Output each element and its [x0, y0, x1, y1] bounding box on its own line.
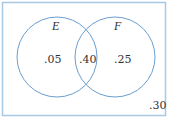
value-f-only: .25 — [114, 53, 132, 66]
set-label-f: F — [113, 19, 122, 33]
value-outside: .30 — [149, 99, 167, 112]
set-label-e: E — [51, 19, 60, 33]
venn-diagram: E F .05 .40 .25 .30 — [0, 0, 169, 119]
value-intersection: .40 — [79, 53, 97, 66]
value-e-only: .05 — [44, 53, 62, 66]
